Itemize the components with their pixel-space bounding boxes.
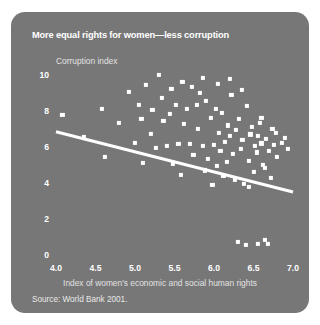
scatter-point: [127, 90, 131, 94]
scatter-point: [248, 132, 252, 136]
scatter-point: [259, 141, 263, 145]
scatter-point: [256, 134, 260, 138]
scatter-point: [150, 108, 154, 112]
scatter-point: [153, 146, 157, 150]
scatter-point: [195, 103, 199, 107]
scatter-point: [212, 143, 216, 147]
scatter-point: [245, 104, 249, 108]
scatter-point: [247, 185, 251, 189]
scatter-point: [188, 142, 192, 146]
scatter-point: [240, 88, 244, 92]
scatter-point: [237, 117, 241, 121]
scatter-point: [231, 152, 235, 156]
scatter-point: [232, 177, 236, 181]
scatter-point: [161, 119, 165, 123]
scatter-point: [216, 82, 220, 86]
scatter-point: [157, 73, 161, 77]
scatter-point: [149, 131, 153, 135]
scatter-point: [202, 168, 206, 172]
scatter-point: [137, 103, 141, 107]
scatter-point: [171, 162, 175, 166]
scatter-point: [196, 127, 200, 131]
scatter-point: [228, 134, 232, 138]
scatter-point: [100, 107, 104, 111]
scatter-point: [139, 117, 143, 121]
scatter-point: [269, 176, 273, 180]
scatter-point: [266, 242, 270, 246]
scatter-point: [274, 131, 278, 135]
x-tick-label: 4.0: [50, 263, 62, 273]
scatter-point: [280, 140, 284, 144]
scatter-point: [190, 85, 194, 89]
chart-panel: More equal rights for women—less corrupt…: [11, 12, 309, 313]
scatter-point: [210, 183, 214, 187]
scatter-point: [165, 144, 169, 148]
scatter-point: [204, 99, 208, 103]
scatter-point: [60, 113, 64, 117]
scatter-point: [209, 116, 213, 120]
scatter-point: [220, 111, 224, 115]
x-axis-label: Index of women's economic and social hum…: [11, 278, 309, 288]
scatter-point: [283, 136, 287, 140]
scatter-point: [221, 174, 225, 178]
scatter-point: [247, 158, 251, 162]
x-tick-label: 7.0: [287, 263, 299, 273]
scatter-point: [133, 140, 137, 144]
y-tick-label: 4: [29, 178, 49, 188]
scatter-point: [117, 121, 121, 125]
scatter-point: [180, 80, 184, 84]
scatter-point: [234, 128, 238, 132]
scatter-point: [244, 243, 248, 247]
scatter-point: [255, 150, 259, 154]
scatter-point: [176, 142, 180, 146]
x-tick-label: 5.0: [129, 263, 141, 273]
scatter-point: [253, 144, 257, 148]
scatter-point: [223, 140, 227, 144]
scatter-point: [225, 160, 229, 164]
scatter-point: [179, 173, 183, 177]
scatter-point: [213, 107, 217, 111]
source-note: Source: World Bank 2001.: [32, 295, 127, 304]
scatter-point: [174, 103, 178, 107]
scatter-point: [250, 125, 254, 129]
scatter-point: [206, 157, 210, 161]
scatter-point: [226, 123, 230, 127]
scatter-point: [169, 86, 173, 90]
y-tick-label: 2: [29, 214, 49, 224]
scatter-point: [201, 144, 205, 148]
scatter-point: [275, 155, 279, 159]
y-tick-label: 6: [29, 142, 49, 152]
scatter-point: [267, 149, 271, 153]
scatter-point: [259, 116, 263, 120]
scatter-point: [185, 107, 189, 111]
y-tick-label: 0: [29, 250, 49, 260]
scatter-point: [262, 166, 266, 170]
scatter-point: [264, 137, 268, 141]
scatter-point: [215, 164, 219, 168]
scatter-point: [144, 83, 148, 87]
x-tick-label: 5.5: [169, 263, 181, 273]
y-tick-label: 10: [29, 70, 49, 80]
scatter-point: [229, 93, 233, 97]
x-tick-label: 4.5: [90, 263, 102, 273]
scatter-point: [82, 135, 86, 139]
scatter-point: [141, 161, 145, 165]
scatter-point: [217, 131, 221, 135]
scatter-point: [228, 77, 232, 81]
scatter-point: [191, 153, 195, 157]
scatter-point: [198, 91, 202, 95]
scatter-point: [242, 182, 246, 186]
scatter-point: [272, 143, 276, 147]
scatter-point: [251, 170, 255, 174]
scatter-point: [256, 242, 260, 246]
scatter-point: [239, 147, 243, 151]
scatter-point: [286, 147, 290, 151]
y-tick-label: 8: [29, 106, 49, 116]
x-tick-label: 6.0: [208, 263, 220, 273]
scatter-point: [236, 239, 240, 243]
scatter-point: [240, 138, 244, 142]
scatter-point: [103, 155, 107, 159]
scatter-point: [258, 121, 262, 125]
scatter-point: [218, 149, 222, 153]
scatter-point: [201, 76, 205, 80]
